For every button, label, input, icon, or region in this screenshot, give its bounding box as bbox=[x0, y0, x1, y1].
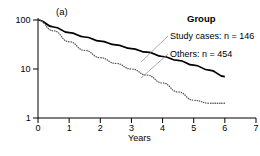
x-tick-label: 7 bbox=[254, 124, 259, 133]
legend-title: Group bbox=[187, 14, 216, 24]
x-tick-label: 5 bbox=[191, 124, 196, 133]
x-tick-label: 1 bbox=[67, 124, 72, 133]
y-axis-ticks bbox=[33, 20, 38, 118]
panel-label: (a) bbox=[56, 7, 68, 17]
y-tick-label: 10 bbox=[21, 65, 31, 74]
x-tick-label: 0 bbox=[36, 124, 41, 133]
survival-chart-figure: (a) Group Study cases: n = 146 Others: n… bbox=[0, 0, 260, 156]
x-axis-title: Years bbox=[128, 134, 151, 143]
legend-item-others: Others: n = 454 bbox=[170, 50, 232, 59]
x-tick-label: 2 bbox=[98, 124, 103, 133]
x-tick-label: 6 bbox=[222, 124, 227, 133]
y-tick-label: 100 bbox=[15, 16, 30, 25]
x-tick-label: 3 bbox=[129, 124, 134, 133]
y-tick-label: 1 bbox=[26, 114, 31, 123]
x-tick-label: 4 bbox=[160, 124, 165, 133]
legend-item-study-cases: Study cases: n = 146 bbox=[170, 32, 254, 41]
